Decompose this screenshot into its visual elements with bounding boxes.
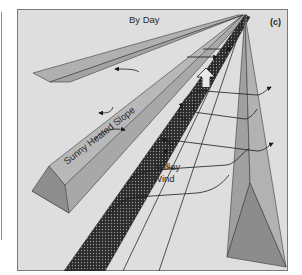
valley-wind-diagram: By Day (c) Sunny Heated Slope Valley Win… xyxy=(17,9,288,271)
panel-label: (c) xyxy=(270,17,281,27)
valley-wind-label-line1: Valley xyxy=(155,161,180,172)
diagram-title: By Day xyxy=(129,14,160,25)
valley-wind-label-line2: Wind xyxy=(153,173,175,184)
page-margin-rule xyxy=(1,12,2,240)
